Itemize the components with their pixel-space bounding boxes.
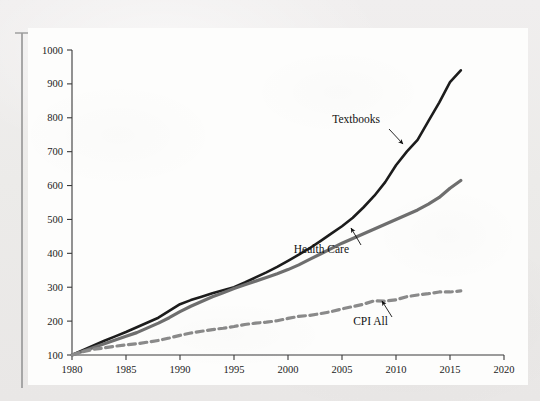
axes: [72, 50, 504, 355]
x-tick-label: 2010: [386, 364, 407, 375]
annotation-arrow: [389, 129, 403, 144]
x-tick-label: 1980: [62, 364, 83, 375]
x-tick-label: 2005: [332, 364, 353, 375]
x-tick-label: 1995: [224, 364, 245, 375]
series-line-cpi-all: [72, 291, 461, 355]
y-tick-label: 100: [47, 350, 63, 361]
y-tick-label: 500: [47, 214, 63, 225]
y-tick-label: 600: [47, 180, 63, 191]
y-tick-label: 1000: [42, 45, 63, 56]
x-tick-label: 2020: [494, 364, 515, 375]
annotation-label: CPI All: [353, 315, 388, 327]
page-margin-rule: [21, 33, 23, 388]
series-line-textbooks: [72, 70, 461, 355]
y-tick-label: 800: [47, 112, 63, 123]
y-axis-ticks: 1002003004005006007008009001000: [42, 45, 72, 361]
figure-canvas: 1002003004005006007008009001000 19801985…: [28, 28, 528, 385]
line-chart: 1002003004005006007008009001000 19801985…: [28, 28, 528, 385]
y-tick-label: 900: [47, 78, 63, 89]
x-tick-label: 1985: [116, 364, 137, 375]
annotation-label: Textbooks: [332, 113, 380, 125]
x-tick-label: 1990: [170, 364, 191, 375]
data-series: [72, 70, 461, 355]
y-tick-label: 400: [47, 248, 63, 259]
x-tick-label: 2015: [440, 364, 461, 375]
x-axis-ticks: 198019851990199520002005201020152020: [62, 355, 515, 375]
x-tick-label: 2000: [278, 364, 299, 375]
y-tick-label: 700: [47, 146, 63, 157]
y-tick-label: 200: [47, 316, 63, 327]
y-tick-label: 300: [47, 282, 63, 293]
annotation-label: Health Care: [294, 243, 349, 255]
